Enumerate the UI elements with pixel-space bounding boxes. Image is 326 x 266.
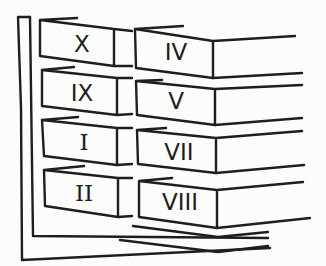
drawer-cabinet-diagram: X IX I II IV V VII VIII — [0, 0, 326, 266]
drawer-label-vii: VII — [150, 141, 208, 164]
drawer-label-x: X — [60, 33, 104, 56]
drawer-label-iv: IV — [148, 41, 204, 64]
drawer-label-ix: IX — [60, 82, 104, 105]
drawer-label-viii: VIII — [150, 191, 210, 214]
drawer-label-ii: II — [62, 182, 106, 205]
drawer-label-i: I — [62, 131, 106, 154]
drawer-label-v: V — [148, 90, 204, 113]
cabinet-outline — [0, 0, 326, 266]
